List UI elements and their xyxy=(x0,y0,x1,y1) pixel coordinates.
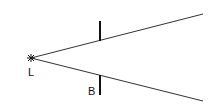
lower-ray xyxy=(31,58,203,101)
source-label: L xyxy=(28,67,34,78)
barrier-label: B xyxy=(88,86,95,97)
diagram-canvas xyxy=(0,0,212,107)
light-source-star-icon xyxy=(27,54,35,62)
upper-ray xyxy=(31,14,203,58)
